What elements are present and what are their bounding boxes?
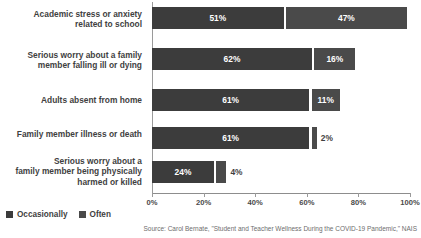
bar-row: 51%47% <box>152 7 410 29</box>
legend-label: Occasionally <box>17 210 68 219</box>
bar-value-label: 16% <box>314 48 355 70</box>
bar-segment: 11% <box>312 89 340 111</box>
x-axis-tick-label: 60% <box>299 198 314 207</box>
x-axis-line <box>152 193 410 194</box>
category-label-line: Serious worry about a <box>0 156 142 166</box>
bar-segment: 61% <box>152 89 309 111</box>
category-label-line: related to school <box>0 19 142 29</box>
bar-value-label: 61% <box>152 89 309 111</box>
source-note: Source: Carol Bernate, "Student and Teac… <box>143 225 417 232</box>
bar-row: 62%16% <box>152 48 410 70</box>
category-label-line: harmed or killed <box>0 177 142 187</box>
bar-value-label: 11% <box>312 89 340 111</box>
x-axis-tick <box>410 193 411 197</box>
legend-item[interactable]: Often <box>79 210 111 219</box>
bar-value-label: 24% <box>152 161 214 183</box>
x-axis-tick <box>152 193 153 197</box>
bar-segment: 24% <box>152 161 214 183</box>
category-label: Serious worry about afamily member being… <box>0 156 142 187</box>
bar-value-label: 4% <box>230 161 242 183</box>
x-axis-tick <box>255 193 256 197</box>
category-label: Adults absent from home <box>0 95 142 105</box>
legend-swatch-icon <box>6 211 13 218</box>
category-label: Serious worry about a familymember falli… <box>0 50 142 71</box>
bar-value-label: 2% <box>321 127 333 149</box>
legend-item[interactable]: Occasionally <box>6 210 68 219</box>
bar-row: 24%4% <box>152 161 410 183</box>
category-label-line: member falling ill or dying <box>0 60 142 70</box>
category-label-line: Family member illness or death <box>0 129 142 139</box>
bar-value-label: 47% <box>286 7 407 29</box>
bar-value-label: 62% <box>152 48 312 70</box>
bar-segment: 51% <box>152 7 284 29</box>
stacked-bar-chart: Academic stress or anxietyrelated to sch… <box>0 0 421 238</box>
category-label-line: family member being physically <box>0 166 142 176</box>
x-axis-tick <box>307 193 308 197</box>
legend-swatch-icon <box>79 211 86 218</box>
category-label-line: Academic stress or anxiety <box>0 9 142 19</box>
category-label: Academic stress or anxietyrelated to sch… <box>0 9 142 30</box>
bar-row: 61%2% <box>152 127 410 149</box>
category-label: Family member illness or death <box>0 129 142 139</box>
x-axis-tick <box>358 193 359 197</box>
bar-value-label: 51% <box>152 7 284 29</box>
x-axis-tick-label: 100% <box>400 198 419 207</box>
plot-area: 0%20%40%60%80%100% 51%47%62%16%61%11%61%… <box>152 0 410 196</box>
bar-row: 61%11% <box>152 89 410 111</box>
x-axis-tick-label: 80% <box>351 198 366 207</box>
bar-segment: 62% <box>152 48 312 70</box>
bar-segment: 47% <box>286 7 407 29</box>
bar-segment: 2% <box>312 127 317 149</box>
category-axis-labels: Academic stress or anxietyrelated to sch… <box>0 0 147 196</box>
x-axis-tick-label: 40% <box>248 198 263 207</box>
x-axis-tick-label: 20% <box>196 198 211 207</box>
x-axis-tick-label: 0% <box>147 198 158 207</box>
category-label-line: Serious worry about a family <box>0 50 142 60</box>
chart-legend: OccasionallyOften <box>6 210 111 219</box>
bar-segment: 4% <box>216 161 226 183</box>
bar-segment: 61% <box>152 127 309 149</box>
bar-segment: 16% <box>314 48 355 70</box>
legend-label: Often <box>90 210 111 219</box>
bar-value-label: 61% <box>152 127 309 149</box>
x-axis-tick <box>204 193 205 197</box>
category-label-line: Adults absent from home <box>0 95 142 105</box>
